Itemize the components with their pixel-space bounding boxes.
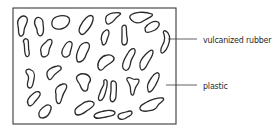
blend-diagram (0, 0, 280, 131)
vulcanized-rubber-label: vulcanized rubber (203, 35, 271, 45)
rubber-particles (18, 12, 170, 119)
plastic-matrix-box (13, 8, 176, 124)
plastic-label: plastic (203, 81, 228, 91)
